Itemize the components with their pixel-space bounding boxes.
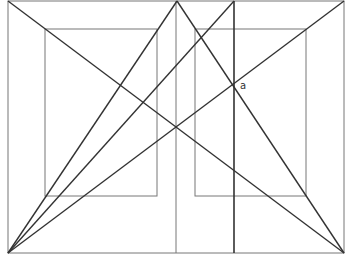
- geometric-diagram: [0, 0, 355, 256]
- point-a-label: a: [240, 80, 246, 91]
- line-bl-thick-top: [8, 1, 234, 253]
- line-bl-apex: [8, 1, 177, 253]
- line-apex-br: [177, 1, 344, 253]
- left-inner-square: [45, 29, 157, 196]
